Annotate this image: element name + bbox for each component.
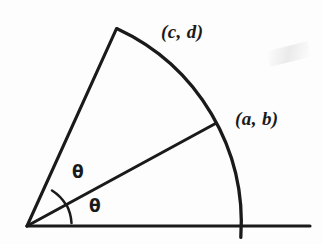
angle-mark-lower	[66, 204, 71, 223]
angle-label-theta-upper: θ	[72, 164, 84, 181]
angle-label-theta-lower: θ	[89, 198, 101, 215]
geometry-figure: (c, d) (a, b) θ θ	[0, 0, 322, 244]
point-label-cd: (c, d)	[161, 22, 204, 41]
ray-to-point-ab	[27, 124, 216, 227]
circular-arc	[117, 29, 241, 238]
angle-mark-upper	[52, 191, 66, 205]
point-label-ab: (a, b)	[235, 109, 279, 128]
ray-to-point-cd	[27, 29, 117, 226]
